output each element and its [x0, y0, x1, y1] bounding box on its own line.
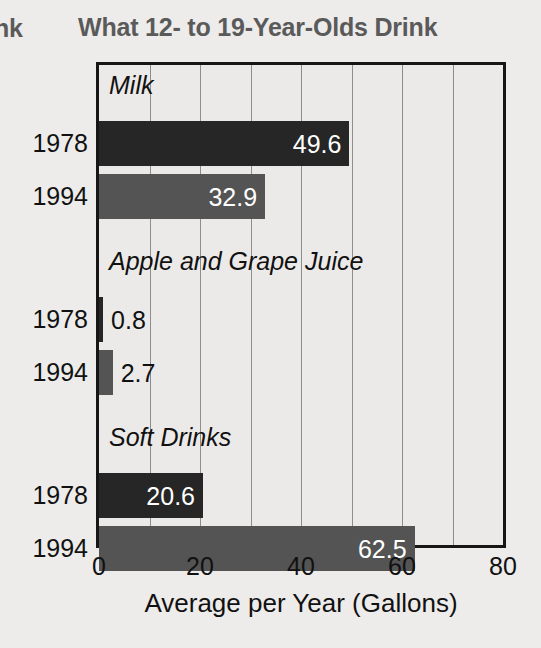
bar-value-label: 2.7 — [121, 358, 156, 387]
bar-milk-1978[interactable]: 49.6 — [99, 121, 349, 166]
year-label-1978: 1978 — [2, 481, 88, 510]
bar-milk-1994[interactable]: 32.9 — [99, 174, 265, 219]
bar-soft-drinks-1978[interactable]: 20.6 — [99, 473, 203, 518]
bar-apple-and-grape-juice-1978[interactable] — [99, 297, 103, 342]
group-label: Milk — [109, 71, 153, 100]
page-title: What 12- to 19-Year-Olds Drink — [78, 13, 437, 42]
year-axis-labels: 197819941978199419781994 — [0, 62, 88, 548]
bar-value-label: 20.6 — [146, 481, 195, 510]
x-tick-label: 60 — [388, 552, 416, 581]
x-tick-label: 0 — [92, 552, 106, 581]
chart-page: nk What 12- to 19-Year-Olds Drink 197819… — [0, 0, 541, 648]
bar-value-label: 0.8 — [111, 305, 146, 334]
bar-value-label: 49.6 — [293, 129, 342, 158]
year-label-1978: 1978 — [2, 129, 88, 158]
group-label: Soft Drinks — [109, 423, 231, 452]
x-axis-title: Average per Year (Gallons) — [96, 588, 506, 619]
plot-inner: Milk49.632.9Apple and Grape Juice0.82.7S… — [99, 65, 503, 545]
x-tick-label: 20 — [186, 552, 214, 581]
bar-value-label: 32.9 — [208, 182, 257, 211]
plot-area: Milk49.632.9Apple and Grape Juice0.82.7S… — [96, 62, 506, 548]
chart-header: nk What 12- to 19-Year-Olds Drink — [0, 0, 541, 56]
bar-apple-and-grape-juice-1994[interactable] — [99, 350, 113, 395]
x-tick-label: 80 — [489, 552, 517, 581]
x-tick-label: 40 — [287, 552, 315, 581]
group-label: Apple and Grape Juice — [109, 247, 363, 276]
x-axis-tick-labels: 020406080 — [96, 552, 506, 584]
year-label-1994: 1994 — [2, 358, 88, 387]
year-label-1978: 1978 — [2, 305, 88, 334]
gridline — [352, 65, 353, 545]
year-label-1994: 1994 — [2, 182, 88, 211]
gridline — [402, 65, 403, 545]
year-label-1994: 1994 — [2, 534, 88, 563]
previous-column-text-fragment: nk — [0, 14, 23, 43]
gridline — [453, 65, 454, 545]
